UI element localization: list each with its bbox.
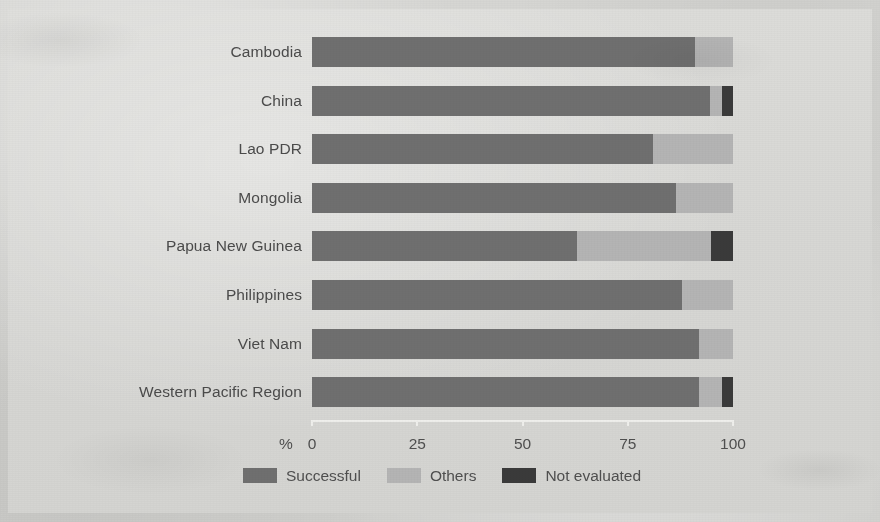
category-label: Cambodia bbox=[2, 44, 302, 60]
bar-segment-others bbox=[695, 37, 733, 67]
x-axis-unit-label: % bbox=[279, 436, 293, 452]
legend-swatch-icon bbox=[243, 468, 277, 483]
bar-segment-others bbox=[676, 183, 733, 213]
x-axis-tick bbox=[522, 420, 524, 426]
legend-item[interactable]: Others bbox=[387, 468, 477, 484]
bar-segment-not-evaluated bbox=[722, 377, 733, 407]
bar-segment-not-evaluated bbox=[711, 231, 733, 261]
bar-row bbox=[312, 183, 733, 213]
bar-segment-not-evaluated bbox=[722, 86, 733, 116]
bar-row bbox=[312, 134, 733, 164]
bar-segment-successful bbox=[312, 377, 699, 407]
category-label: Philippines bbox=[2, 287, 302, 303]
category-label: Viet Nam bbox=[2, 336, 302, 352]
legend-item[interactable]: Successful bbox=[243, 468, 361, 484]
legend-label: Not evaluated bbox=[545, 468, 641, 484]
bar-segment-successful bbox=[312, 37, 695, 67]
scanned-page: CambodiaChinaLao PDRMongoliaPapua New Gu… bbox=[0, 0, 880, 522]
x-axis-tick bbox=[732, 420, 734, 426]
x-axis-tick bbox=[311, 420, 313, 426]
bar-row bbox=[312, 86, 733, 116]
category-label: China bbox=[2, 93, 302, 109]
bar-row bbox=[312, 231, 733, 261]
legend-swatch-icon bbox=[502, 468, 536, 483]
bar-row bbox=[312, 329, 733, 359]
bar-row bbox=[312, 280, 733, 310]
legend-swatch-icon bbox=[387, 468, 421, 483]
x-axis-tick-label: 25 bbox=[387, 436, 447, 452]
bar-segment-successful bbox=[312, 183, 676, 213]
category-label: Western Pacific Region bbox=[2, 384, 302, 400]
bar-segment-others bbox=[710, 86, 723, 116]
chart-legend: SuccessfulOthersNot evaluated bbox=[2, 468, 880, 484]
bar-segment-successful bbox=[312, 280, 682, 310]
bar-segment-others bbox=[699, 329, 733, 359]
bar-segment-successful bbox=[312, 86, 710, 116]
bar-segment-successful bbox=[312, 329, 699, 359]
x-axis-tick-label: 75 bbox=[598, 436, 658, 452]
bar-segment-others bbox=[577, 231, 711, 261]
bar-segment-successful bbox=[312, 231, 577, 261]
x-axis-tick bbox=[627, 420, 629, 426]
bar-segment-others bbox=[682, 280, 733, 310]
bar-row bbox=[312, 377, 733, 407]
bar-segment-others bbox=[699, 377, 722, 407]
category-label: Papua New Guinea bbox=[2, 238, 302, 254]
category-label: Mongolia bbox=[2, 190, 302, 206]
category-label: Lao PDR bbox=[2, 141, 302, 157]
legend-label: Others bbox=[430, 468, 477, 484]
x-axis-tick bbox=[416, 420, 418, 426]
bar-segment-successful bbox=[312, 134, 653, 164]
stacked-bar-chart: CambodiaChinaLao PDRMongoliaPapua New Gu… bbox=[0, 0, 880, 522]
bar-segment-others bbox=[653, 134, 733, 164]
bar-row bbox=[312, 37, 733, 67]
legend-label: Successful bbox=[286, 468, 361, 484]
x-axis-tick-label: 100 bbox=[703, 436, 763, 452]
x-axis-tick-label: 50 bbox=[493, 436, 553, 452]
legend-item[interactable]: Not evaluated bbox=[502, 468, 641, 484]
